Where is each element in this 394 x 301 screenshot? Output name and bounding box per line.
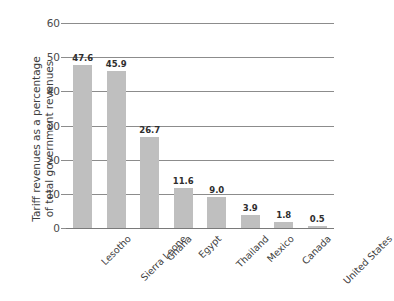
bar-value-label: 45.9 — [96, 60, 136, 69]
bar — [241, 215, 260, 228]
bar — [174, 188, 193, 228]
y-axis-tick-label: 60 — [0, 18, 60, 29]
x-axis-category-label: Thailand — [234, 233, 271, 270]
x-axis-category-label: Canada — [299, 233, 332, 266]
gridline — [66, 57, 334, 58]
y-axis-tick-label: 20 — [0, 155, 60, 166]
bar-value-label: 0.5 — [297, 215, 337, 224]
y-axis-tick-label: 40 — [0, 86, 60, 97]
y-axis-tick-label: 50 — [0, 52, 60, 63]
bar — [274, 222, 293, 228]
bar — [207, 197, 226, 228]
bar — [73, 65, 92, 228]
y-axis-tick-label: 0 — [0, 223, 60, 234]
axis-baseline — [66, 228, 334, 229]
y-axis-tick-label: 10 — [0, 189, 60, 200]
bar — [308, 226, 327, 228]
bar-value-label: 26.7 — [130, 126, 170, 135]
y-axis-tick-label: 30 — [0, 121, 60, 132]
bar-value-label: 11.6 — [163, 177, 203, 186]
plot-area — [66, 23, 334, 228]
x-axis-category-label: United States — [341, 233, 394, 286]
bar — [107, 71, 126, 228]
bar — [140, 137, 159, 228]
x-axis-category-label: Lesotho — [99, 233, 133, 267]
gridline — [66, 23, 334, 24]
bar-value-label: 9.0 — [197, 186, 237, 195]
x-axis-category-label: Egypt — [196, 233, 223, 260]
x-axis-category-label: Mexico — [265, 233, 296, 264]
y-axis-title: Tariff revenues as a percentage of total… — [28, 34, 58, 244]
